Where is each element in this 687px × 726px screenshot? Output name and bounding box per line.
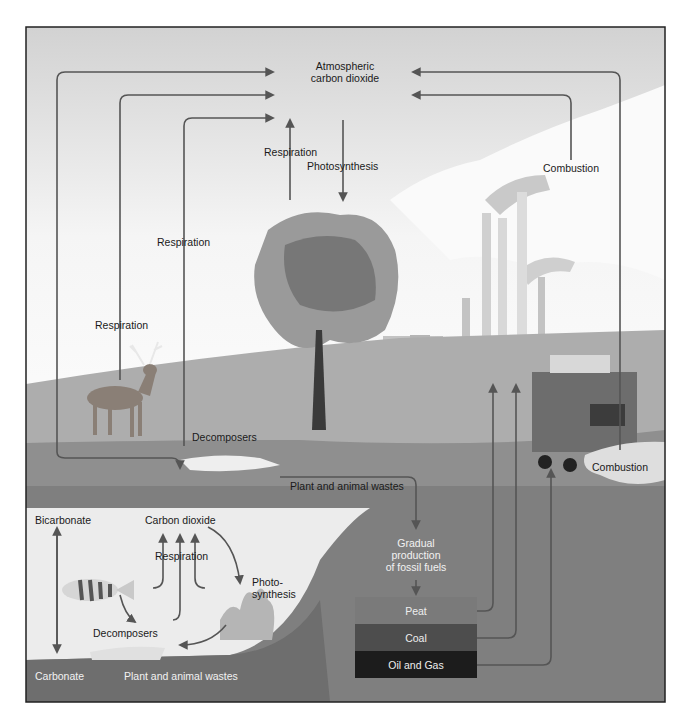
photo-line2: synthesis bbox=[252, 588, 296, 600]
factory-combustion-label: Combustion bbox=[543, 162, 599, 174]
fossil-line1: Gradual bbox=[376, 537, 456, 549]
deer-respiration-label: Respiration bbox=[95, 319, 148, 331]
fuel-layer-peat: Peat bbox=[355, 597, 477, 624]
wastes-label: Plant and animal wastes bbox=[290, 480, 404, 492]
bicarbonate-label: Bicarbonate bbox=[35, 514, 91, 526]
diagram-canvas bbox=[0, 0, 687, 726]
water-decomposers-label: Decomposers bbox=[93, 627, 158, 639]
carbonate-label: Carbonate bbox=[35, 670, 84, 682]
fuel-layer-oil-gas: Oil and Gas bbox=[355, 651, 477, 678]
decomposer-respiration-label: Respiration bbox=[157, 236, 210, 248]
fossil-production-label: Gradual production of fossil fuels bbox=[376, 537, 456, 573]
vehicle-combustion-label: Combustion bbox=[592, 461, 648, 473]
atmosphere-label: Atmospheric carbon dioxide bbox=[275, 60, 415, 84]
water-wastes-label: Plant and animal wastes bbox=[124, 670, 238, 682]
tree-respiration-label: Respiration bbox=[264, 146, 317, 158]
fuel-layer-coal: Coal bbox=[355, 624, 477, 651]
decomposers-label: Decomposers bbox=[192, 431, 257, 443]
photosynthesis-label: Photosynthesis bbox=[307, 160, 378, 172]
water-photosynthesis-label: Photo- synthesis bbox=[252, 576, 296, 600]
carbon-cycle-diagram: Peat Coal Oil and Gas Atmospheric carbon… bbox=[0, 0, 687, 726]
fossil-line3: of fossil fuels bbox=[376, 561, 456, 573]
fossil-line2: production bbox=[376, 549, 456, 561]
photo-line1: Photo- bbox=[252, 576, 296, 588]
atmosphere-line2: carbon dioxide bbox=[275, 72, 415, 84]
water-co2-label: Carbon dioxide bbox=[145, 514, 216, 526]
atmosphere-line1: Atmospheric bbox=[275, 60, 415, 72]
water-respiration-label: Respiration bbox=[155, 550, 208, 562]
